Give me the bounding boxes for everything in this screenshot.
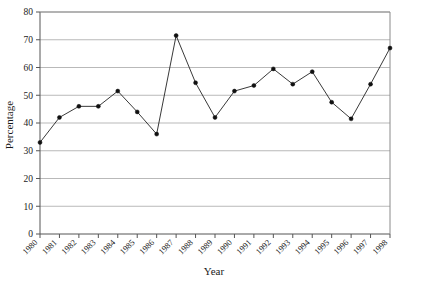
y-tick-label: 30 — [24, 146, 34, 156]
data-point — [310, 70, 314, 74]
y-tick-label: 10 — [24, 202, 34, 212]
line-chart: 01020304050607080 1980198119821983198419… — [0, 0, 422, 281]
y-tick-label: 20 — [24, 174, 34, 184]
data-point — [330, 100, 334, 104]
y-axis-tick-labels: 01020304050607080 — [24, 7, 34, 239]
data-point — [213, 115, 217, 119]
x-axis-title: Year — [204, 265, 225, 277]
data-point — [194, 81, 198, 85]
data-point — [155, 132, 159, 136]
chart-background — [0, 0, 422, 281]
y-axis-title: Percentage — [3, 101, 15, 149]
data-point — [369, 82, 373, 86]
y-tick-label: 50 — [24, 91, 34, 101]
y-tick-label: 70 — [24, 35, 34, 45]
data-point — [96, 104, 100, 108]
data-point — [388, 46, 392, 50]
data-point — [271, 67, 275, 71]
chart-canvas: 01020304050607080 1980198119821983198419… — [0, 0, 422, 281]
data-point — [57, 115, 61, 119]
data-point — [349, 117, 353, 121]
data-point — [38, 140, 42, 144]
data-point — [174, 34, 178, 38]
data-point — [291, 82, 295, 86]
y-tick-label: 40 — [24, 118, 34, 128]
data-point — [252, 84, 256, 88]
data-point — [116, 89, 120, 93]
y-tick-label: 60 — [24, 63, 34, 73]
data-point — [232, 89, 236, 93]
data-point — [77, 104, 81, 108]
data-point — [135, 110, 139, 114]
y-tick-label: 80 — [24, 7, 34, 17]
